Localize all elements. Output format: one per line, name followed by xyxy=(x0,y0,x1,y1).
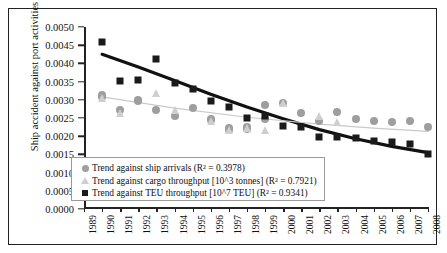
legend-item-cargo-throughput: Trend against cargo throughput [10^3 ton… xyxy=(78,175,318,188)
y-tick-label: 0.0035 xyxy=(45,76,74,87)
data-point xyxy=(352,115,360,123)
y-tick-label: 0.0045 xyxy=(45,40,74,51)
data-point xyxy=(262,112,269,119)
data-point xyxy=(279,99,287,107)
data-point xyxy=(315,112,323,120)
x-tick-label: 2000 xyxy=(287,215,297,234)
x-tick-label: 2003 xyxy=(341,215,351,234)
y-tick-label: 0.0015 xyxy=(45,149,74,160)
data-point xyxy=(189,104,197,112)
data-point xyxy=(298,124,305,131)
x-tick-label: 1999 xyxy=(269,215,279,234)
data-point xyxy=(261,126,269,134)
legend-label: Trend against TEU throughput [10^7 TEU] … xyxy=(92,188,308,198)
data-point xyxy=(207,98,214,105)
data-point xyxy=(388,139,395,146)
y-tick-label: 0.0025 xyxy=(45,113,74,124)
legend-label: Trend against ship arrivals (R² = 0.3978… xyxy=(92,163,245,173)
data-point xyxy=(98,94,106,102)
x-tick-label: 1998 xyxy=(251,215,261,234)
data-point xyxy=(388,118,396,126)
data-point xyxy=(243,115,250,122)
data-point xyxy=(406,141,413,148)
data-point xyxy=(370,137,377,144)
data-point xyxy=(424,123,432,131)
data-point xyxy=(189,86,196,93)
data-point xyxy=(334,133,341,140)
y-tick-label: 0.0020 xyxy=(45,131,74,142)
x-tick-label: 1997 xyxy=(233,215,243,234)
x-tick-label: 1996 xyxy=(215,215,225,234)
x-tick-label: 1990 xyxy=(106,215,116,234)
x-tick-label: 1993 xyxy=(160,215,170,234)
data-point xyxy=(152,106,160,114)
x-tick-label: 1995 xyxy=(197,215,207,234)
x-tick-label: 1989 xyxy=(88,215,98,234)
x-tick-label: 1992 xyxy=(142,215,152,234)
x-tick-label: 2005 xyxy=(378,215,388,234)
square-marker-icon xyxy=(78,190,92,196)
chart-legend: Trend against ship arrivals (R² = 0.3978… xyxy=(71,157,325,201)
x-tick-label: 2006 xyxy=(396,215,406,234)
legend-label: Trend against cargo throughput [10^3 ton… xyxy=(92,176,317,186)
y-tick-label: 0.0000 xyxy=(45,204,74,215)
x-tick-label: 1994 xyxy=(179,215,189,234)
data-point xyxy=(333,118,341,126)
circle-marker-icon xyxy=(78,165,92,172)
data-point xyxy=(171,106,179,114)
data-point xyxy=(243,124,251,132)
x-tick-label: 2008 xyxy=(432,215,442,234)
legend-item-ship-arrivals: Trend against ship arrivals (R² = 0.3978… xyxy=(78,162,318,175)
x-tick-mark xyxy=(428,207,429,212)
data-point xyxy=(171,80,178,87)
data-point xyxy=(425,150,432,157)
data-point xyxy=(225,126,233,134)
y-tick-label: 0.0010 xyxy=(45,167,74,178)
data-point xyxy=(99,39,106,46)
x-tick-label: 2007 xyxy=(414,215,424,234)
data-point xyxy=(135,77,142,84)
x-tick-label: 1991 xyxy=(124,215,134,234)
x-tick-label: 2002 xyxy=(323,215,333,234)
triangle-marker-icon xyxy=(78,177,92,184)
data-point xyxy=(153,55,160,62)
data-point xyxy=(352,135,359,142)
data-point xyxy=(370,117,378,125)
x-tick-label: 2001 xyxy=(305,215,315,234)
data-point xyxy=(117,78,124,85)
data-point xyxy=(316,134,323,141)
data-point xyxy=(280,123,287,130)
data-point xyxy=(261,101,269,109)
y-tick-label: 0.0005 xyxy=(45,185,74,196)
data-point xyxy=(406,117,414,125)
data-point xyxy=(333,108,341,116)
y-tick-label: 0.0030 xyxy=(45,94,74,105)
data-point xyxy=(297,109,305,117)
y-tick-label: 0.0040 xyxy=(45,58,74,69)
data-point xyxy=(134,97,142,105)
data-point xyxy=(152,89,160,97)
x-tick-label: 2004 xyxy=(360,215,370,234)
chart-frame: Ship accident against port activities 0.… xyxy=(8,8,437,245)
y-tick-label: 0.0050 xyxy=(45,22,74,33)
data-point xyxy=(116,109,124,117)
data-point xyxy=(207,117,215,125)
chart-figure: Ship accident against port activities 0.… xyxy=(0,0,447,253)
legend-item-teu-throughput: Trend against TEU throughput [10^7 TEU] … xyxy=(78,187,318,200)
data-point xyxy=(225,103,232,110)
